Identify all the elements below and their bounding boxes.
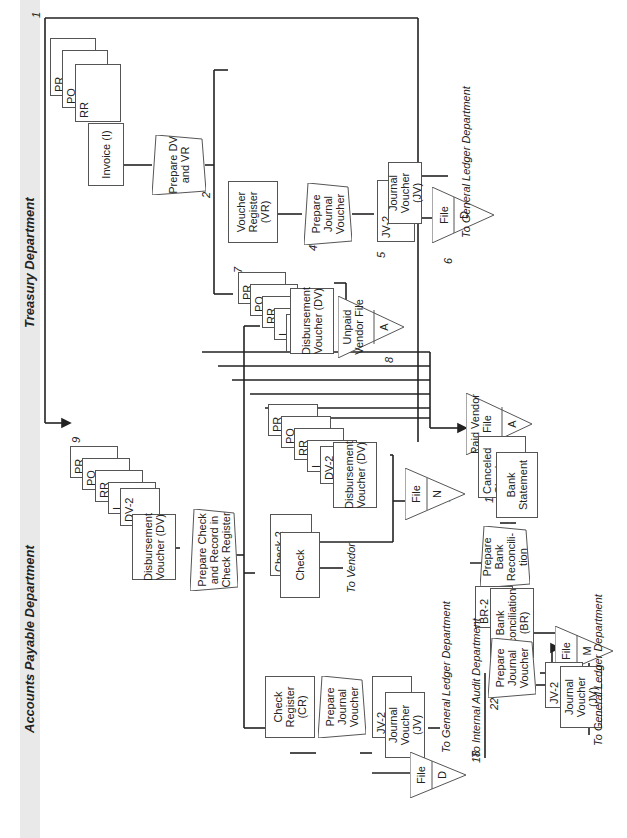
- flowchart: Accounts Payable Department Treasury Dep…: [0, 0, 627, 838]
- destination-internal-audit: To Internal Audit Department: [470, 618, 482, 758]
- process-label: Prepare Bank Reconcili-tion: [484, 526, 526, 588]
- process-label: Prepare Journal Voucher: [322, 676, 362, 738]
- document-check-register: Check Register (CR): [265, 676, 315, 738]
- step-number-4: 4: [307, 245, 319, 251]
- file-label: File: [415, 752, 427, 798]
- doc-label: Disbursement Voucher (DV): [343, 441, 367, 509]
- doc-label: Invoice (I): [100, 130, 112, 178]
- process-label: Prepare DV and VR: [156, 135, 202, 195]
- step-number-9: 9: [70, 437, 82, 443]
- file-label: File: [410, 468, 422, 520]
- doc-label: RR: [78, 102, 90, 118]
- document-disbursement-voucher: Disbursement Voucher (DV): [132, 514, 176, 580]
- process-label: Prepare Journal Voucher: [308, 183, 348, 245]
- step-number-22: 22: [488, 698, 500, 710]
- file-label: File: [438, 187, 450, 243]
- process-prepare-journal-voucher-treasury: Prepare Journal Voucher: [318, 676, 366, 738]
- doc-label: Disbursement Voucher (DV): [142, 513, 166, 581]
- destination-vendor: To Vendor: [345, 543, 357, 593]
- doc-label: Check: [294, 549, 306, 580]
- doc-label: Disbursement Voucher (DV): [300, 287, 324, 355]
- document-journal-voucher: Journal Voucher (JV): [388, 162, 422, 224]
- step-number-5: 5: [375, 252, 387, 258]
- step-number-1: 1: [30, 12, 42, 18]
- destination-gl-ap: To General Ledger Department: [460, 86, 472, 238]
- doc-tag: JV-2: [548, 682, 560, 704]
- document-voucher-register: Voucher Register (VR): [228, 181, 278, 243]
- process-prepare-check: Prepare Check and Record in Check Regist…: [190, 509, 238, 591]
- process-prepare-dv-vr: Prepare DV and VR: [152, 135, 206, 195]
- doc-label: Check Register (CR): [272, 680, 308, 734]
- doc-label: Voucher Register (VR): [235, 185, 271, 239]
- step-number-6: 6: [442, 258, 454, 264]
- file-code: A: [378, 296, 390, 358]
- destination-gl-recon: To General Ledger Department: [592, 594, 604, 746]
- file-label: Unpaid Vendor File: [341, 296, 365, 358]
- destination-gl-treasury: To General Ledger Department: [440, 601, 452, 753]
- process-label: Prepare Check and Record in Check Regist…: [193, 509, 235, 591]
- document-disbursement-voucher: Disbursement Voucher (DV): [333, 442, 377, 508]
- process-label: Prepare Journal Voucher: [492, 638, 532, 698]
- file-code: D: [436, 752, 448, 798]
- process-prepare-journal-voucher-recon: Prepare Journal Voucher: [488, 638, 536, 698]
- document-check: Check: [280, 532, 320, 598]
- doc-label: Journal Voucher (JV): [387, 696, 423, 754]
- doc-label: Bank Statement: [505, 456, 529, 514]
- file-unpaid-vendor: Unpaid Vendor File A: [338, 296, 404, 358]
- file-n: File N: [405, 468, 465, 520]
- document-rr: RR: [75, 64, 121, 122]
- process-prepare-journal-voucher: Prepare Journal Voucher: [304, 183, 352, 245]
- document-bank-statement: Bank Statement: [496, 452, 538, 518]
- process-prepare-bank-reconciliation: Prepare Bank Reconcili-tion: [480, 526, 530, 588]
- file-code: N: [431, 468, 443, 520]
- document-journal-voucher: Journal Voucher (JV): [385, 692, 425, 758]
- file-d-treasury: File D: [410, 752, 466, 798]
- document-disbursement-voucher: Disbursement Voucher (DV): [290, 288, 334, 354]
- document-invoice: Invoice (I): [88, 123, 124, 186]
- doc-label: Journal Voucher (JV): [387, 166, 423, 220]
